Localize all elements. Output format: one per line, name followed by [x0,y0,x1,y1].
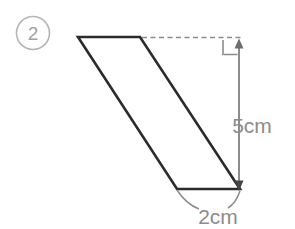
base-label: 2cm [198,205,238,228]
problem-number-label: 2 [28,23,39,44]
height-arrow-up-icon [235,39,244,49]
parallelogram-shape [78,37,240,189]
height-label: 5cm [232,114,272,137]
parallelogram-diagram-svg: 2 5cm 2cm [0,0,295,229]
geometry-figure: 2 5cm 2cm [0,0,295,229]
problem-number-marker: 2 [17,17,50,50]
base-arc-left-segment [177,190,199,209]
